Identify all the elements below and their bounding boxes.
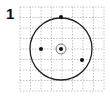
left-point: [39, 47, 43, 51]
center-point: [59, 47, 63, 51]
top-point: [59, 15, 63, 19]
grid-circle-diagram: [0, 0, 110, 97]
lower-right-point: [80, 58, 84, 62]
